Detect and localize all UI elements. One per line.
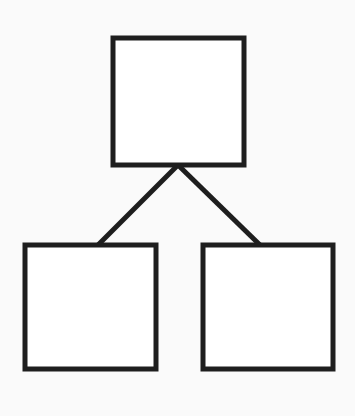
node-root: [113, 38, 244, 165]
tree-diagram: [0, 0, 355, 416]
edge-root-to-child-left: [98, 165, 178, 245]
node-child-left: [25, 245, 156, 369]
node-child-right: [203, 245, 333, 369]
edge-root-to-child-right: [178, 165, 260, 245]
